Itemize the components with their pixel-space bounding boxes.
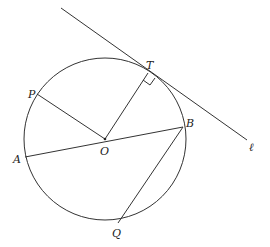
segment-op xyxy=(37,94,105,139)
label-q: Q xyxy=(112,227,121,240)
label-b: B xyxy=(185,117,194,130)
label-t: T xyxy=(146,59,155,72)
chord-bq xyxy=(118,127,183,223)
geometry-diagram: T P A O B Q ℓ xyxy=(0,0,270,247)
label-l: ℓ xyxy=(249,141,254,154)
center-point-o xyxy=(104,138,107,141)
right-angle-marker xyxy=(143,78,155,85)
label-a: A xyxy=(12,153,21,166)
segment-ot xyxy=(105,73,148,139)
label-o: O xyxy=(100,145,109,158)
label-p: P xyxy=(27,88,36,101)
tangent-line-l xyxy=(61,8,247,140)
